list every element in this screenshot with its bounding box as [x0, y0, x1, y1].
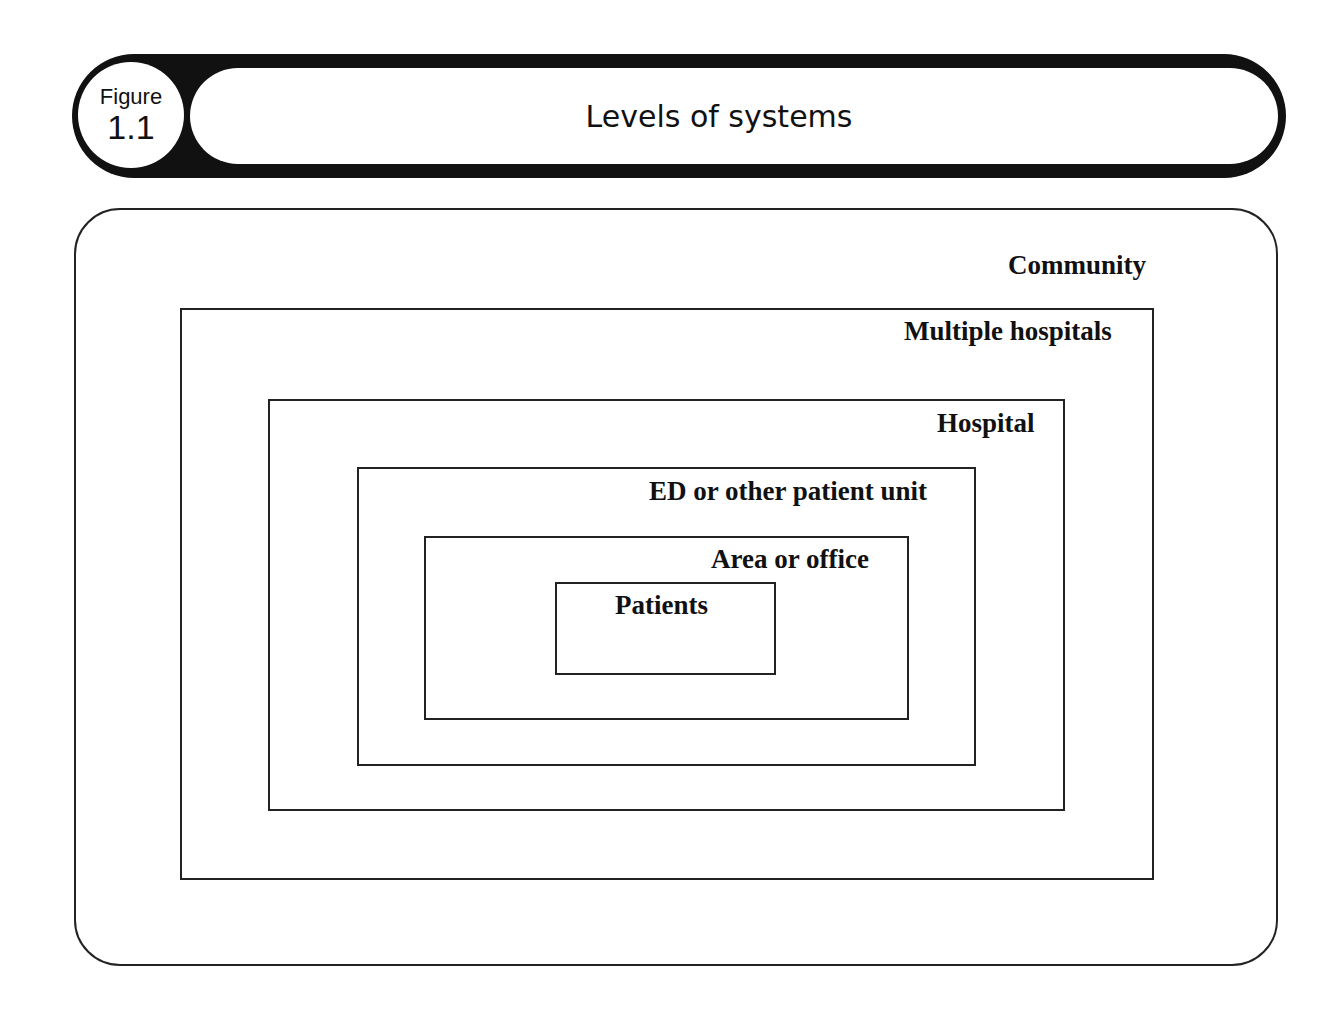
figure-number-badge: Figure 1.1: [78, 62, 184, 168]
area-office-label: Area or office: [711, 544, 869, 575]
patient-unit-label: ED or other patient unit: [649, 476, 927, 507]
community-label: Community: [1008, 250, 1146, 281]
figure-label: Figure: [100, 86, 162, 108]
figure-title: Levels of systems: [586, 99, 853, 134]
figure-number: 1.1: [107, 110, 154, 144]
patients-label: Patients: [615, 590, 708, 621]
title-pill: Levels of systems: [190, 68, 1278, 164]
multiple-hospitals-label: Multiple hospitals: [904, 316, 1112, 347]
hospital-label: Hospital: [937, 408, 1035, 439]
